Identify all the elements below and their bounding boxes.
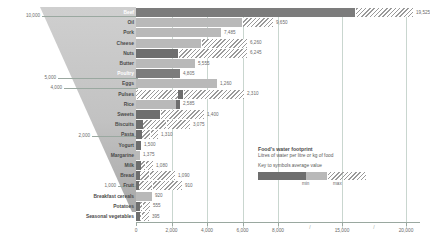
value-label: 6,260 (250, 38, 262, 47)
bar-average (136, 79, 217, 88)
legend-max-label: max (333, 181, 342, 186)
category-label-beef: Beef (8, 8, 137, 17)
legend-minmax-labels: min max (258, 181, 378, 189)
value-label: 2,585 (183, 99, 195, 108)
value-label: 1,090 (178, 171, 190, 180)
avg-tick (221, 27, 222, 38)
avg-tick (166, 119, 167, 130)
avg-tick (180, 68, 181, 79)
bar-max (136, 120, 190, 129)
x-tick-4000 (207, 222, 208, 226)
avg-tick (242, 17, 243, 28)
x-tick-2000 (172, 222, 173, 226)
x-tick-label-4000: 4,000 (201, 228, 213, 233)
avg-tick (195, 58, 196, 69)
bar-average (136, 192, 152, 201)
bar-max (136, 171, 175, 180)
legend-swatch-average (306, 172, 328, 180)
category-label-eggs: Eggs (8, 79, 137, 88)
bar-max (178, 49, 247, 58)
bar-max (201, 39, 247, 48)
table-row: 4,805 (136, 69, 420, 78)
category-label-yogurt: Yogurt (8, 141, 137, 150)
category-label-potatoes: Potatoes (8, 202, 137, 211)
table-row: 9,650 (136, 18, 420, 27)
table-row: 19,525 (136, 8, 420, 17)
legend: Food's water footprint Litres of water p… (258, 146, 378, 189)
category-label-rice: Rice (8, 100, 137, 109)
x-tick-label-8000: 8,000 (272, 228, 284, 233)
legend-swatch-max (328, 172, 366, 180)
bar-max (136, 90, 244, 99)
bar-max (160, 110, 204, 119)
table-row: 6,245 (136, 49, 420, 58)
x-tick-label-6000: 6,000 (236, 228, 248, 233)
plot-area: 19,525 9,650 7,485 6,260 (136, 8, 420, 222)
x-tick-0 (136, 222, 137, 226)
value-label: 1,080 (156, 161, 168, 170)
value-label: 2,310 (247, 89, 259, 98)
bar-average (136, 28, 221, 37)
category-label-breakfast-cereals: Breakfast cereals (8, 192, 137, 201)
axis-break-2-icon: / (373, 224, 374, 230)
category-label-poultry: Poultry (8, 69, 137, 78)
category-label-margarine: Margarine (8, 151, 137, 160)
legend-subtitle: Litres of water per litre or kg of food (258, 153, 378, 160)
bar-max (136, 181, 182, 190)
table-row: 6,260 (136, 39, 420, 48)
value-label: 920 (155, 191, 163, 200)
avg-tick (145, 160, 146, 171)
table-row: 1,400 (136, 110, 420, 119)
x-tick-label-15000: 15,000 (335, 228, 350, 233)
bar-max (355, 8, 413, 17)
table-row: 920 (136, 192, 420, 201)
avg-tick (150, 129, 151, 140)
category-label-pulses: Pulses (8, 90, 137, 99)
value-label: 555 (153, 201, 161, 210)
legend-average-tick (327, 171, 328, 181)
avg-tick (201, 38, 202, 49)
bar-average (136, 100, 176, 109)
bar-min (136, 49, 178, 58)
bar-min (136, 120, 143, 129)
category-label-nuts: Nuts (8, 49, 137, 58)
value-label: 395 (152, 212, 160, 221)
legend-swatch-min (258, 172, 306, 180)
category-label-pork: Pork (8, 28, 137, 37)
table-row: 5,555 (136, 59, 420, 68)
table-row: 555 (136, 202, 420, 211)
avg-tick (149, 170, 150, 181)
avg-tick (355, 7, 356, 18)
value-label: 9,650 (276, 18, 288, 27)
x-tick-20000 (406, 222, 407, 226)
x-tick-label-20000: 20,000 (399, 228, 414, 233)
avg-tick (180, 99, 181, 110)
category-label-butter: Butter (8, 59, 137, 68)
avg-tick (141, 211, 142, 222)
category-label-seasonal-vegetables: Seasonal vegetables (8, 212, 137, 221)
legend-key-caption: Key to symbols average value (258, 163, 378, 170)
value-label: 7,485 (224, 28, 236, 37)
table-row: 2,310 (136, 90, 420, 99)
category-label-biscuits: Biscuits (8, 120, 137, 129)
category-label-milk: Milk (8, 161, 137, 170)
avg-tick (142, 201, 143, 212)
legend-swatch (258, 172, 366, 180)
value-label: 5,555 (198, 59, 210, 68)
x-tick-label-0: 0 (135, 228, 138, 233)
table-row: 7,485 (136, 28, 420, 37)
bar-max (242, 18, 273, 27)
bar-min (136, 110, 160, 119)
bar-average (136, 39, 201, 48)
x-tick-label-2000: 2,000 (165, 228, 177, 233)
avg-tick (217, 78, 218, 89)
value-label: 1,500 (144, 140, 156, 149)
bar-average (136, 69, 180, 78)
value-label: 1,310 (161, 130, 173, 139)
x-tick-8000 (278, 222, 279, 226)
avg-tick (183, 89, 184, 100)
value-label: 910 (185, 181, 193, 190)
table-row: 1,310 (136, 130, 420, 139)
category-label-cheese: Cheese (8, 39, 137, 48)
value-label: 1,400 (207, 110, 219, 119)
